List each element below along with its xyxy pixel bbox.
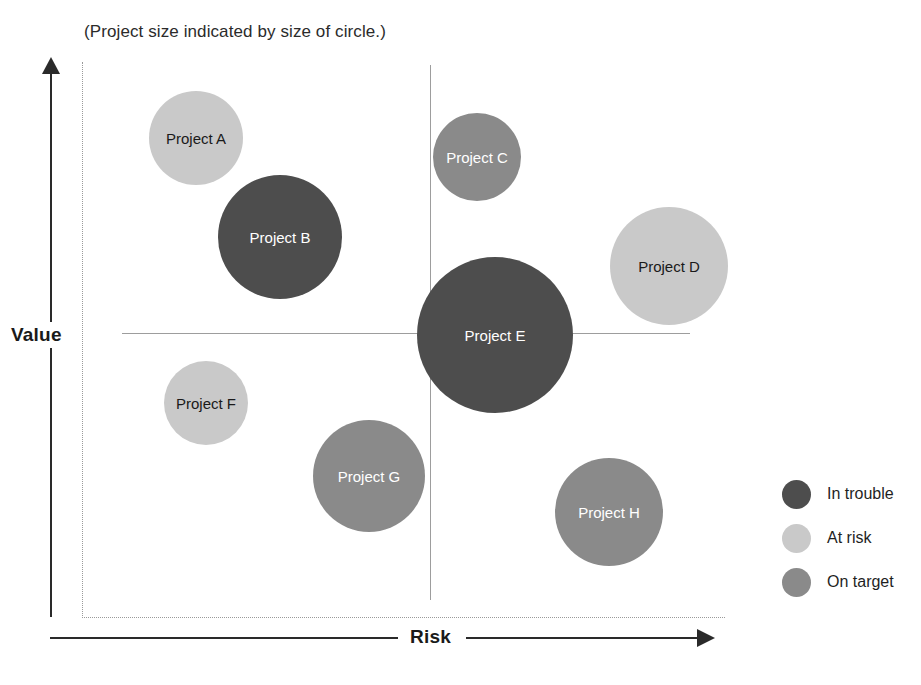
y-axis-label: Value bbox=[6, 322, 67, 348]
legend: In troubleAt riskOn target bbox=[782, 472, 894, 604]
x-axis-arrow-icon bbox=[697, 629, 715, 647]
bubble-project-f[interactable]: Project F bbox=[164, 361, 248, 445]
bubble-label: Project C bbox=[446, 149, 508, 166]
legend-label: On target bbox=[827, 573, 894, 591]
x-axis-line-left bbox=[50, 637, 398, 639]
y-axis-arrow-icon bbox=[42, 57, 60, 74]
bubble-label: Project G bbox=[338, 468, 401, 485]
bubble-project-a[interactable]: Project A bbox=[149, 91, 243, 185]
plot-border-bottom bbox=[82, 617, 725, 618]
bubble-label: Project A bbox=[166, 130, 226, 147]
bubble-project-b[interactable]: Project B bbox=[218, 175, 342, 299]
legend-item-on-target[interactable]: On target bbox=[782, 560, 894, 604]
chart-subtitle: (Project size indicated by size of circl… bbox=[84, 22, 386, 42]
quadrant-divider-horizontal bbox=[122, 333, 690, 334]
legend-swatch-icon bbox=[782, 524, 811, 553]
legend-label: At risk bbox=[827, 529, 871, 547]
bubble-label: Project D bbox=[638, 258, 700, 275]
x-axis-line-right bbox=[466, 637, 699, 639]
legend-item-at-risk[interactable]: At risk bbox=[782, 516, 894, 560]
bubble-label: Project B bbox=[250, 229, 311, 246]
bubble-chart-canvas: (Project size indicated by size of circl… bbox=[0, 0, 921, 685]
bubble-project-d[interactable]: Project D bbox=[610, 207, 728, 325]
legend-swatch-icon bbox=[782, 480, 811, 509]
bubble-label: Project F bbox=[176, 395, 236, 412]
x-axis-label: Risk bbox=[404, 624, 457, 650]
bubble-label: Project E bbox=[465, 327, 526, 344]
bubble-project-c[interactable]: Project C bbox=[433, 113, 521, 201]
legend-label: In trouble bbox=[827, 485, 894, 503]
plot-border-left bbox=[82, 62, 83, 618]
legend-item-in-trouble[interactable]: In trouble bbox=[782, 472, 894, 516]
legend-swatch-icon bbox=[782, 568, 811, 597]
bubble-project-g[interactable]: Project G bbox=[313, 420, 425, 532]
bubble-project-e[interactable]: Project E bbox=[417, 257, 573, 413]
bubble-label: Project H bbox=[578, 504, 640, 521]
bubble-project-h[interactable]: Project H bbox=[555, 458, 663, 566]
